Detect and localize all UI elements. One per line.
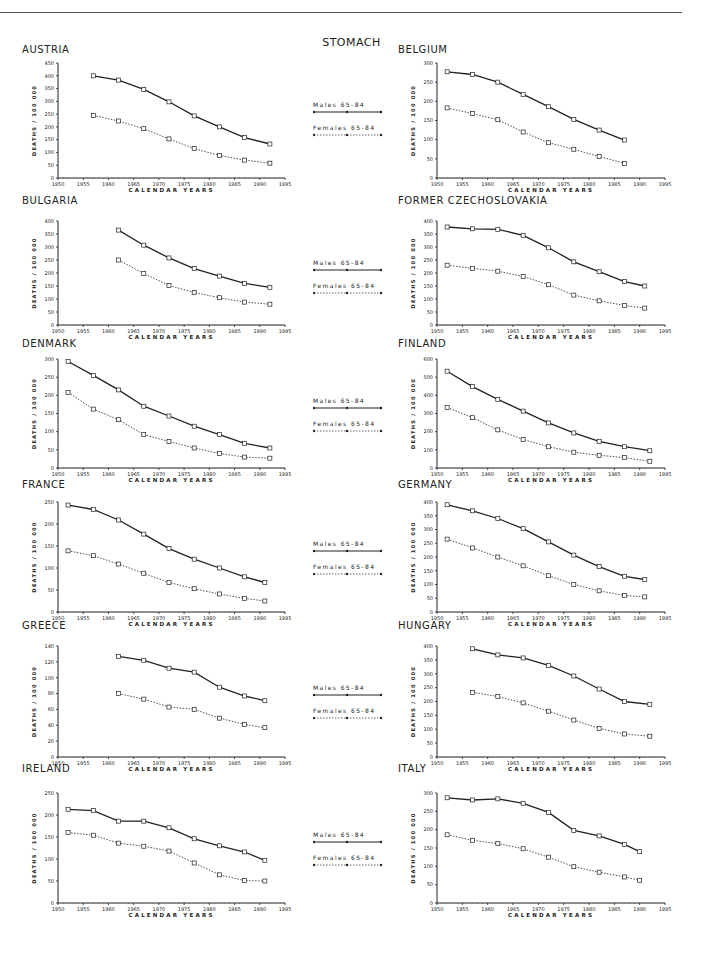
y-tick-label: 300 — [423, 60, 433, 66]
data-point-marker — [572, 828, 576, 832]
data-point-marker — [546, 540, 550, 544]
data-point-marker — [66, 807, 70, 811]
panel-title: GREECE — [22, 620, 66, 631]
legend-males-label: Males 65-84 — [313, 540, 383, 548]
data-point-marker — [167, 826, 171, 830]
data-point-marker — [192, 291, 196, 295]
data-point-marker — [445, 369, 449, 373]
y-tick-label: 100 — [423, 863, 433, 869]
chart-former-czechoslovakia: 0501001502002503003504001950195519601965… — [410, 218, 671, 340]
females-line — [447, 408, 650, 462]
data-point-marker — [268, 285, 272, 289]
data-point-marker — [521, 527, 525, 531]
x-tick-label: 1985 — [228, 906, 241, 912]
data-point-marker — [572, 293, 576, 297]
data-point-marker — [91, 74, 95, 78]
y-tick-label: 50 — [48, 878, 54, 884]
chart-germany: 0501001502002503003504001950195519601965… — [410, 499, 671, 627]
y-tick-label: 50 — [427, 595, 433, 601]
data-point-marker — [167, 439, 171, 443]
x-axis-label: CALENDAR YEARS — [128, 766, 214, 772]
y-tick-label: 0 — [430, 322, 433, 328]
data-point-marker — [167, 581, 171, 585]
data-point-marker — [243, 455, 247, 459]
y-tick-label: 400 — [423, 643, 433, 649]
data-point-marker — [546, 141, 550, 145]
y-tick-label: 100 — [44, 675, 54, 681]
data-point-marker — [217, 274, 221, 278]
y-tick-label: 0 — [51, 609, 54, 615]
x-tick-label: 1960 — [481, 615, 494, 621]
chart-italy: 0501001502002503001950195519601965197019… — [410, 790, 671, 918]
y-tick-label: 0 — [51, 175, 54, 181]
x-tick-label: 1960 — [102, 615, 115, 621]
females-line — [447, 539, 645, 597]
y-tick-label: 20 — [48, 738, 54, 744]
data-point-marker — [192, 707, 196, 711]
females-line — [68, 551, 265, 601]
data-point-marker — [445, 537, 449, 541]
x-tick-label: 1950 — [431, 906, 444, 912]
y-tick-label: 150 — [423, 117, 433, 123]
data-point-marker — [546, 709, 550, 713]
data-point-marker — [263, 599, 267, 603]
data-point-marker — [521, 437, 525, 441]
panel-title: BELGIUM — [398, 44, 448, 55]
legend-males-label: Males 65-84 — [313, 397, 383, 405]
x-tick-label: 1995 — [279, 471, 292, 477]
y-tick-label: 50 — [427, 156, 433, 162]
males-line — [447, 371, 650, 451]
y-tick-label: 250 — [423, 808, 433, 814]
y-tick-label: 150 — [423, 845, 433, 851]
y-tick-label: 100 — [44, 428, 54, 434]
chart-denmark: 0501001502002503001950195519601965197019… — [31, 356, 291, 483]
data-point-marker — [521, 233, 525, 237]
x-tick-label: 1955 — [456, 615, 469, 621]
data-point-marker — [597, 870, 601, 874]
data-point-marker — [217, 433, 221, 437]
y-tick-label: 0 — [430, 754, 433, 760]
x-axis-label: CALENDAR YEARS — [128, 477, 214, 483]
x-tick-label: 1955 — [77, 328, 90, 334]
legend-females-label: Females 65-84 — [313, 282, 383, 290]
y-tick-label: 300 — [44, 244, 54, 250]
data-point-marker — [597, 453, 601, 457]
y-tick-label: 500 — [423, 374, 433, 380]
y-axis-label: DEATHS / 100 000 — [31, 521, 37, 592]
data-point-marker — [572, 674, 576, 678]
x-axis-label: CALENDAR YEARS — [128, 912, 214, 918]
data-point-marker — [167, 100, 171, 104]
chart-belgium: 0501001502002503001950195519601965197019… — [410, 60, 671, 193]
chart-ireland: 0501001502002501950195519601965197019751… — [31, 790, 291, 918]
y-tick-label: 80 — [48, 690, 54, 696]
data-point-marker — [117, 388, 121, 392]
data-point-marker — [217, 125, 221, 129]
data-point-marker — [622, 732, 626, 736]
data-point-marker — [167, 666, 171, 670]
males-line — [68, 362, 270, 449]
data-point-marker — [496, 797, 500, 801]
females-line — [447, 265, 645, 308]
data-point-marker — [167, 705, 171, 709]
y-tick-label: 300 — [44, 98, 54, 104]
legend-males-label: Males 65-84 — [313, 684, 383, 692]
data-point-marker — [445, 406, 449, 410]
x-tick-label: 1995 — [659, 471, 672, 477]
data-point-marker — [622, 280, 626, 284]
data-point-marker — [243, 850, 247, 854]
y-tick-label: 200 — [423, 428, 433, 434]
data-point-marker — [142, 87, 146, 91]
data-point-marker — [597, 565, 601, 569]
data-point-marker — [470, 838, 474, 842]
x-tick-label: 1990 — [253, 471, 266, 477]
data-point-marker — [643, 578, 647, 582]
x-tick-label: 1985 — [608, 760, 621, 766]
females-line — [447, 835, 640, 881]
y-tick-label: 100 — [44, 856, 54, 862]
legend-females-label: Females 65-84 — [313, 420, 383, 428]
y-tick-label: 300 — [423, 410, 433, 416]
x-axis-label: CALENDAR YEARS — [508, 187, 594, 193]
data-point-marker — [142, 697, 146, 701]
x-tick-label: 1985 — [608, 181, 621, 187]
data-point-marker — [546, 246, 550, 250]
